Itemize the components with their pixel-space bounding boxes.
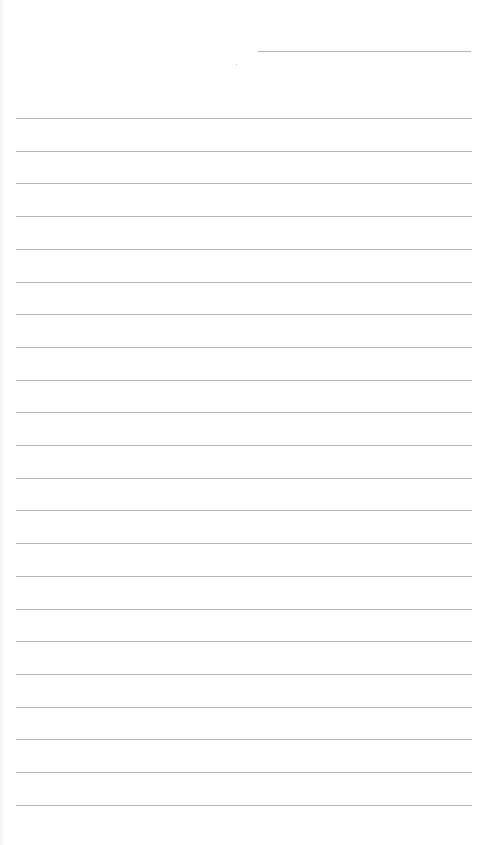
page-edge-shadow <box>0 0 4 845</box>
ruled-line <box>16 347 472 348</box>
ruled-line <box>16 739 472 740</box>
ruled-line <box>16 445 472 446</box>
ruled-line <box>16 609 472 610</box>
ruled-line <box>16 674 472 675</box>
ruled-line <box>16 151 472 152</box>
ruled-line <box>16 282 472 283</box>
ruled-line <box>16 249 472 250</box>
ruled-line <box>16 707 472 708</box>
ruled-line <box>16 412 472 413</box>
ruled-line <box>16 118 472 119</box>
ruled-line <box>16 510 472 511</box>
ruled-line <box>16 183 472 184</box>
ruled-line <box>16 216 472 217</box>
ruled-line <box>16 641 472 642</box>
ruled-line <box>16 314 472 315</box>
header-date-line <box>258 51 471 52</box>
ruled-line <box>16 805 472 806</box>
ruled-line <box>16 576 472 577</box>
ruled-line <box>16 478 472 479</box>
ruled-line <box>16 772 472 773</box>
paper-speck <box>236 64 237 65</box>
ruled-paper-page <box>0 0 495 845</box>
ruled-line <box>16 543 472 544</box>
ruled-line <box>16 380 472 381</box>
